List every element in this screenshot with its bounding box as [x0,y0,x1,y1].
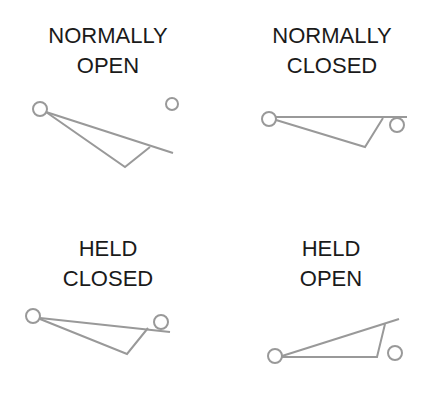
switch-symbols [0,0,422,399]
contact-terminal-icon [166,98,178,110]
contact-terminal-icon [390,118,404,132]
normally-open-switch-icon [33,98,178,167]
held-closed-switch-icon [26,309,170,354]
contact-terminal-icon [388,346,402,360]
actuator-triangle [276,118,383,147]
held-open-switch-icon [268,319,402,363]
normally-closed-switch-icon [262,112,407,147]
pivot-terminal-icon [262,112,276,126]
contact-arm-line [46,112,173,153]
contact-arm-line [40,318,170,332]
pivot-terminal-icon [26,309,40,323]
contact-terminal-icon [154,315,168,329]
pivot-terminal-icon [268,349,282,363]
pivot-terminal-icon [33,102,47,116]
